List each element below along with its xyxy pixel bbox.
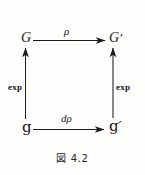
node-bottom-right-prime: ′ (119, 119, 122, 134)
arrow-label-left-vertical: exp (8, 83, 22, 92)
node-top-right-letter: G (109, 30, 119, 45)
node-top-left: G (21, 31, 31, 45)
node-bottom-right: g′ (109, 119, 122, 134)
node-bottom-left: g (22, 120, 32, 135)
node-top-right: G′ (109, 31, 122, 45)
node-bottom-right-letter: g (109, 117, 119, 135)
figure-container: G G′ g g′ ρ dρ exp exp 図 4.2 (0, 0, 145, 175)
commutative-diagram: G G′ g g′ ρ dρ exp exp (0, 0, 145, 148)
arrow-label-right-vertical: exp (116, 83, 130, 92)
figure-caption: 図 4.2 (0, 150, 145, 165)
arrow-label-top: ρ (64, 26, 69, 37)
node-top-right-prime: ′ (119, 30, 122, 45)
arrow-label-bottom: dρ (61, 113, 72, 124)
